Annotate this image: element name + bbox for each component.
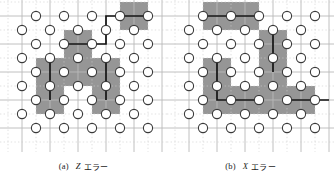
qubit-circle bbox=[254, 39, 263, 48]
qubit-circle bbox=[143, 95, 152, 104]
panel-z-error bbox=[0, 0, 167, 152]
qubit-circle bbox=[184, 53, 193, 62]
caption-row: (a) Z エラー (b) X エラー bbox=[0, 152, 334, 180]
qubit-circle bbox=[45, 81, 54, 90]
qubit-circle bbox=[254, 95, 263, 104]
qubit-circle bbox=[254, 123, 263, 132]
qubit-circle bbox=[226, 123, 235, 132]
caption-panel-a: (a) Z エラー bbox=[0, 152, 167, 180]
qubit-circle bbox=[268, 25, 277, 34]
qubit-circle bbox=[101, 53, 110, 62]
qubit-circle bbox=[198, 123, 207, 132]
qubit-circle bbox=[31, 67, 40, 76]
qubit-circle bbox=[254, 67, 263, 76]
qubit-circle bbox=[115, 67, 124, 76]
qubit-circle bbox=[101, 81, 110, 90]
qubit-circle bbox=[226, 39, 235, 48]
caption-tag-b: (b) bbox=[225, 161, 236, 171]
qubit-circle bbox=[184, 81, 193, 90]
qubit-circle bbox=[45, 25, 54, 34]
qubit-circle bbox=[101, 109, 110, 118]
qubit-circle bbox=[282, 11, 291, 20]
qubit-circle bbox=[101, 25, 110, 34]
caption-text-a: エラー bbox=[84, 161, 109, 172]
qubit-circle bbox=[45, 109, 54, 118]
qubit-circle bbox=[310, 39, 319, 48]
qubit-circle bbox=[198, 67, 207, 76]
qubit-circle bbox=[268, 53, 277, 62]
qubit-circle bbox=[226, 67, 235, 76]
qubit-circle bbox=[143, 67, 152, 76]
qubit-circle bbox=[129, 25, 138, 34]
qubit-circle bbox=[129, 81, 138, 90]
qubit-circle bbox=[240, 53, 249, 62]
qubit-circle bbox=[143, 11, 152, 20]
qubit-circle bbox=[268, 81, 277, 90]
qubit-circle bbox=[226, 95, 235, 104]
qubit-circle bbox=[184, 25, 193, 34]
qubit-circle bbox=[143, 123, 152, 132]
caption-panel-b: (b) X エラー bbox=[167, 152, 334, 180]
caption-symbol-b: X bbox=[243, 161, 248, 171]
qubit-circle bbox=[87, 95, 96, 104]
qubit-circle bbox=[212, 53, 221, 62]
lattice-diagram-x bbox=[167, 0, 334, 152]
qubit-circle bbox=[282, 95, 291, 104]
qubit-circle bbox=[198, 11, 207, 20]
qubit-circle bbox=[296, 25, 305, 34]
qubit-circle bbox=[240, 109, 249, 118]
qubit-circle bbox=[31, 11, 40, 20]
qubit-circle bbox=[282, 123, 291, 132]
qubit-circle bbox=[17, 81, 26, 90]
qubit-circle bbox=[282, 39, 291, 48]
qubit-circle bbox=[212, 25, 221, 34]
qubit-circle bbox=[254, 11, 263, 20]
qubit-circle bbox=[17, 109, 26, 118]
qubit-circle bbox=[87, 123, 96, 132]
qubit-circle bbox=[17, 25, 26, 34]
qubit-circle bbox=[87, 11, 96, 20]
qubit-circle bbox=[240, 81, 249, 90]
qubit-circle bbox=[31, 39, 40, 48]
qubit-circle bbox=[310, 67, 319, 76]
caption-tag-a: (a) bbox=[59, 161, 69, 171]
qubit-circle bbox=[282, 67, 291, 76]
qubit-circle bbox=[129, 53, 138, 62]
qubit-circle bbox=[310, 123, 319, 132]
qubit-circle bbox=[73, 25, 82, 34]
qubit-circle bbox=[143, 39, 152, 48]
qubit-circle bbox=[115, 11, 124, 20]
panel-x-error bbox=[167, 0, 334, 152]
qubit-circle bbox=[59, 95, 68, 104]
qubit-circle bbox=[212, 109, 221, 118]
qubit-circle bbox=[296, 81, 305, 90]
qubit-circle bbox=[73, 81, 82, 90]
qubit-circle bbox=[73, 109, 82, 118]
qubit-circle bbox=[73, 53, 82, 62]
qubit-circle bbox=[184, 109, 193, 118]
qubit-circle bbox=[129, 109, 138, 118]
qubit-circle bbox=[87, 67, 96, 76]
caption-text-b: エラー bbox=[251, 161, 276, 172]
qubit-circle bbox=[296, 53, 305, 62]
qubit-circle bbox=[115, 95, 124, 104]
qubit-circle bbox=[59, 67, 68, 76]
qubit-circle bbox=[198, 95, 207, 104]
qubit-circle bbox=[240, 25, 249, 34]
lattice-diagram-z bbox=[0, 0, 167, 152]
qubit-circle bbox=[31, 123, 40, 132]
qubit-circle bbox=[212, 81, 221, 90]
qubit-circle bbox=[87, 39, 96, 48]
caption-symbol-a: Z bbox=[76, 161, 81, 171]
qubit-circle bbox=[226, 11, 235, 20]
qubit-circle bbox=[31, 95, 40, 104]
qubit-circle bbox=[59, 123, 68, 132]
qubit-circle bbox=[59, 11, 68, 20]
figure-root: (a) Z エラー (b) X エラー bbox=[0, 0, 334, 180]
qubit-circle bbox=[268, 109, 277, 118]
qubit-circle bbox=[296, 109, 305, 118]
qubit-circle bbox=[17, 53, 26, 62]
qubit-circle bbox=[115, 39, 124, 48]
qubit-circle bbox=[45, 53, 54, 62]
qubit-circle bbox=[310, 11, 319, 20]
